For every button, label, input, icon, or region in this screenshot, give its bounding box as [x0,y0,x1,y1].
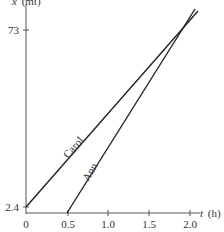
ann-line [67,9,195,213]
y-tick-label-2.4: 2.4 [5,201,19,213]
x-tick-label-0: 0 [23,218,29,230]
x-tick-label-0.5: 0.5 [61,218,75,230]
y-axis-label: x (mi) [11,0,41,8]
x-tick-label-1.5: 1.5 [142,218,156,230]
y-axis-var: x [11,0,17,7]
y-axis-unit: (mi) [22,0,41,8]
x-axis-label: t (h) [200,207,221,220]
x-axis-unit: (h) [208,207,221,220]
position-time-chart: 73 2.4 0 0.5 1.0 1.5 2.0 t (h) x (mi) Ca… [0,0,224,232]
ann-label: Ann [80,160,100,183]
x-tick-label-1.0: 1.0 [101,218,115,230]
y-tick-label-73: 73 [8,24,20,36]
carol-label: Carol [60,134,85,160]
carol-line [26,11,198,207]
x-axis-var: t [200,207,204,219]
x-tick-label-2.0: 2.0 [183,218,197,230]
